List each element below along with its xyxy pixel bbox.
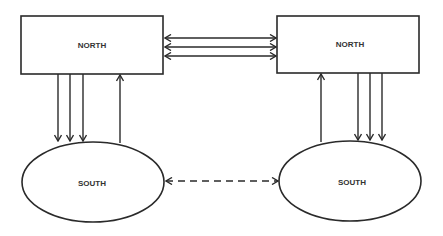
edges-north-north xyxy=(165,38,276,56)
north-left-label: NORTH xyxy=(78,41,107,50)
node-south-right: SOUTH xyxy=(279,141,421,221)
node-south-left: SOUTH xyxy=(22,142,164,222)
south-left-label: SOUTH xyxy=(78,179,106,188)
north-right-label: NORTH xyxy=(336,40,365,49)
edges-right-vertical xyxy=(321,73,382,142)
node-north-left: NORTH xyxy=(21,16,163,74)
node-north-right: NORTH xyxy=(277,16,419,73)
diagram-canvas: NORTH NORTH SOUTH SOUTH xyxy=(0,0,443,236)
edges-left-vertical xyxy=(58,74,120,143)
south-right-label: SOUTH xyxy=(338,178,366,187)
